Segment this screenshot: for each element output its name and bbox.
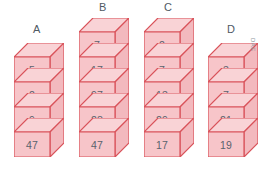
stack-d-blocks: 372119 [208, 43, 258, 157]
block-front-face [14, 132, 50, 157]
block: 47 [14, 118, 64, 157]
block: 17 [144, 118, 194, 157]
stack-d-label: D [227, 24, 235, 35]
stack-b-label: B [99, 2, 107, 13]
block-front-face [144, 132, 180, 157]
block-stack-figure: A 52947 B 717972847 C 27132917 D 372119 … [0, 0, 265, 170]
stack-c-label: C [164, 2, 172, 13]
block-front-face [79, 132, 115, 157]
watermark-text: DAE [250, 38, 256, 52]
stack-b-blocks: 717972847 [79, 18, 129, 157]
stack-a-blocks: 52947 [14, 43, 64, 157]
block-front-face [208, 132, 244, 157]
stack-a-label: A [33, 24, 41, 35]
stack-c-blocks: 27132917 [144, 18, 194, 157]
block: 19 [208, 118, 258, 157]
block: 47 [79, 118, 129, 157]
